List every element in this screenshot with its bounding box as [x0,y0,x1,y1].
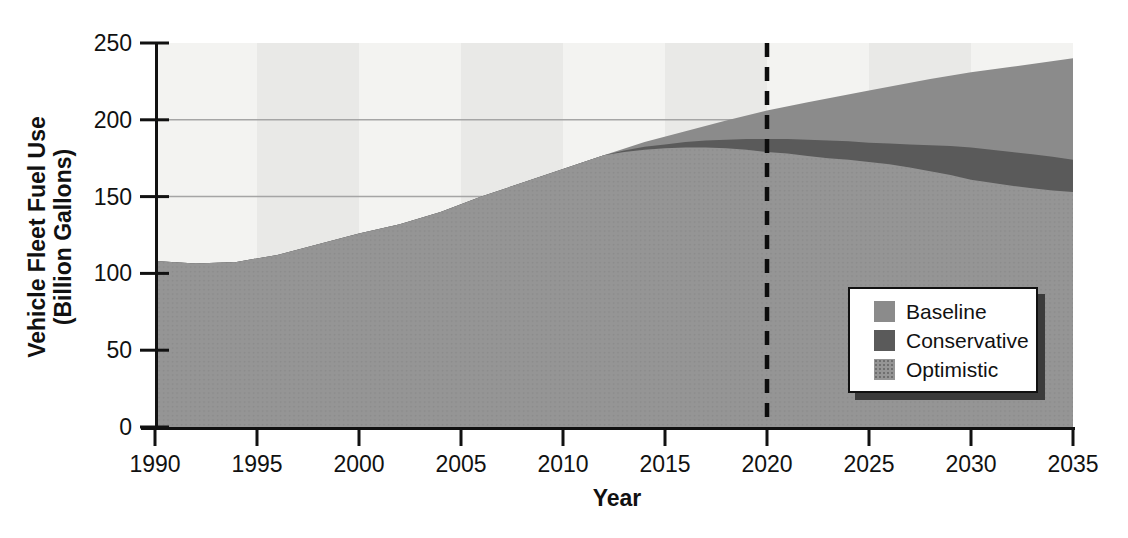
x-tick-label-2030: 2030 [945,451,996,477]
legend-label: Baseline [906,301,987,322]
legend-item-baseline: Baseline [874,300,1030,322]
y-tick-label-200: 200 [94,107,132,133]
x-tick-label-2035: 2035 [1047,451,1098,477]
x-tick-label-1995: 1995 [231,451,282,477]
y-axis-title-line1: Vehicle Fleet Fuel Use [24,116,50,358]
y-tick-label-50: 50 [106,337,132,363]
x-axis-title: Year [593,485,642,511]
x-tick-label-2000: 2000 [333,451,384,477]
x-tick-label-2015: 2015 [639,451,690,477]
legend: BaselineConservativeOptimistic [848,287,1038,393]
x-tick-label-2010: 2010 [537,451,588,477]
y-tick-label-150: 150 [94,184,132,210]
x-tick-label-1990: 1990 [129,451,180,477]
x-tick-label-2020: 2020 [741,451,792,477]
legend-item-conservative: Conservative [874,329,1030,351]
x-tick-label-2005: 2005 [435,451,486,477]
y-tick-label-0: 0 [119,414,132,440]
legend-swatch-baseline [874,301,895,322]
legend-swatch-conservative [874,330,895,351]
legend-label: Optimistic [906,359,998,380]
legend-swatch-optimistic [874,359,895,380]
chart-figure: 0501001502002501990199520002005201020152… [0,0,1128,538]
legend-label: Conservative [906,330,1029,351]
y-tick-label-100: 100 [94,260,132,286]
legend-item-optimistic: Optimistic [874,358,1030,380]
x-tick-label-2025: 2025 [843,451,894,477]
y-tick-label-250: 250 [94,30,132,56]
y-axis-title-line2: (Billion Gallons) [50,149,76,325]
chart-canvas: 0501001502002501990199520002005201020152… [0,0,1128,538]
